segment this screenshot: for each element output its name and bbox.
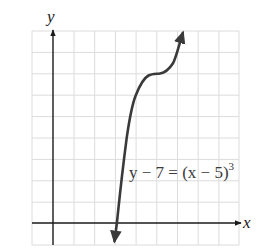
- x-axis-label: x: [242, 213, 251, 232]
- cubic-curve: [115, 33, 183, 241]
- grid-lines: [32, 31, 239, 245]
- y-axis-label: y: [45, 7, 55, 26]
- equation-exponent: 3: [229, 160, 235, 172]
- equation-main: y − 7 = (x − 5): [129, 163, 229, 182]
- equation-label: y − 7 = (x − 5)3: [129, 160, 235, 182]
- cubic-graph: y x y − 7 = (x − 5)3: [0, 0, 262, 251]
